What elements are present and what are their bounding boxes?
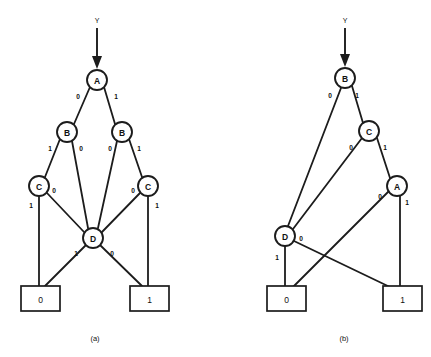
node-label-a-B2: B (119, 128, 125, 138)
edge-label-b-1: 1 (355, 92, 359, 99)
edge-label-b-4: 0 (378, 193, 382, 200)
edge-label-b-6: 0 (299, 235, 303, 242)
node-b-B: B (335, 68, 355, 88)
input-arrow-a: Y (92, 17, 102, 70)
node-a-B1: B (57, 122, 77, 142)
input-label-a: Y (95, 17, 100, 24)
node-a-C2: C (138, 176, 158, 196)
edge-a-B1-D (72, 141, 88, 228)
terminal-b-0: 0 (267, 286, 306, 311)
edge-label-b-3: 1 (383, 144, 387, 151)
edge-label-a-7: 0 (52, 187, 56, 194)
terminal-label-b-1: 1 (400, 295, 405, 305)
edge-label-a-9: 1 (155, 202, 159, 209)
caption-b: (b) (339, 334, 349, 343)
edge-b-D-T1 (294, 241, 392, 288)
figure-canvas: Y 0 (0, 0, 431, 357)
arrow-head-a (92, 56, 102, 69)
terminal-label-a-1: 1 (147, 295, 152, 305)
node-a-A: A (87, 70, 107, 90)
node-label-a-A: A (94, 76, 100, 86)
edge-label-a-0: 0 (76, 93, 80, 100)
edge-a-C1-D (47, 193, 84, 232)
edge-a-B2-D (98, 141, 117, 228)
node-a-D: D (83, 228, 103, 248)
terminal-a-1: 1 (130, 286, 169, 311)
edge-label-b-0: 0 (328, 92, 332, 99)
bdd-figure: Y 0 (0, 0, 431, 357)
edges-b (285, 86, 400, 288)
edge-a-D-T0 (45, 245, 86, 286)
input-arrow-b: Y (340, 17, 350, 68)
panel-a: Y 0 (21, 17, 169, 343)
caption-a: (a) (90, 334, 100, 343)
node-a-B2: B (112, 122, 132, 142)
edge-label-a-11: 0 (110, 250, 114, 257)
edge-a-D-T1 (100, 245, 142, 286)
edge-label-a-1: 1 (114, 93, 118, 100)
edge-label-a-8: 0 (131, 187, 135, 194)
edge-b-A-T0 (292, 191, 389, 288)
node-b-D: D (275, 226, 295, 246)
terminal-label-a-0: 0 (38, 295, 43, 305)
edge-label-a-4: 0 (108, 145, 112, 152)
panel-b: Y 0 1 (267, 17, 422, 343)
edge-label-a-5: 1 (137, 145, 141, 152)
node-a-C1: C (29, 176, 49, 196)
node-label-b-B: B (342, 74, 348, 84)
edge-label-b-2: 0 (349, 144, 353, 151)
edge-label-b-5: 1 (405, 199, 409, 206)
edge-label-a-2: 1 (48, 145, 52, 152)
node-label-a-B1: B (64, 128, 70, 138)
edge-a-C2-D (102, 193, 140, 232)
node-label-a-C1: C (36, 182, 42, 192)
node-label-b-D: D (282, 232, 288, 242)
terminal-b-1: 1 (383, 286, 422, 311)
edge-label-a-3: 0 (79, 145, 83, 152)
node-label-b-A: A (394, 182, 400, 192)
node-label-b-C: C (366, 127, 372, 137)
terminal-a-0: 0 (21, 286, 60, 311)
edge-b-B-D (288, 88, 341, 226)
terminal-label-b-0: 0 (284, 295, 289, 305)
node-label-a-C2: C (145, 182, 151, 192)
node-b-A: A (387, 176, 407, 196)
edge-label-a-10: 1 (74, 250, 78, 257)
input-label-b: Y (343, 17, 348, 24)
edge-b-C-D (293, 138, 362, 229)
node-label-a-D: D (90, 234, 96, 244)
arrow-head-b (340, 54, 350, 67)
edge-label-a-6: 1 (29, 202, 33, 209)
edge-label-b-7: 1 (275, 254, 279, 261)
node-b-C: C (359, 121, 379, 141)
